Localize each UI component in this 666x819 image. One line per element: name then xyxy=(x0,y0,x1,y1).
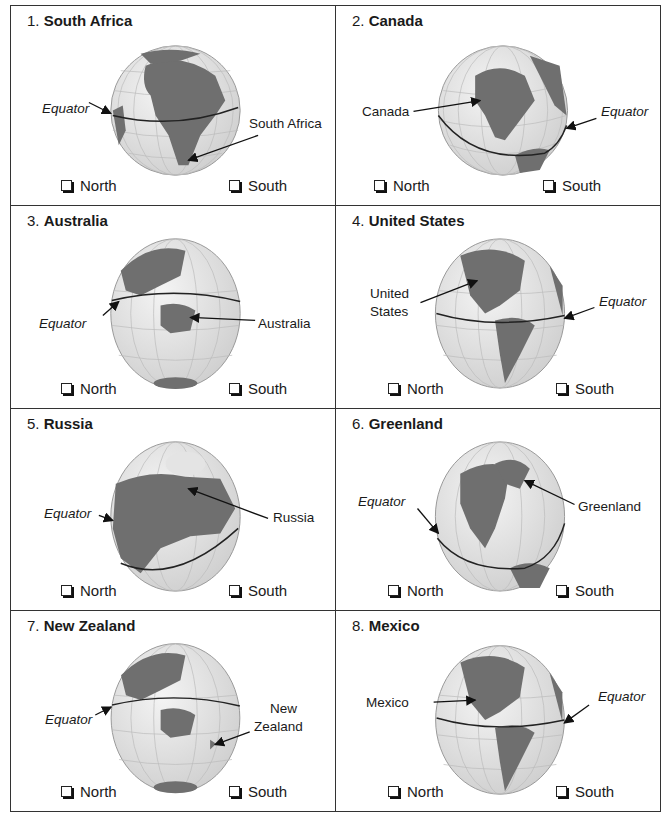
south-checkbox[interactable]: South xyxy=(556,380,614,397)
equator-label: Equator xyxy=(39,316,86,332)
north-checkbox[interactable]: North xyxy=(61,380,117,397)
north-checkbox[interactable]: North xyxy=(388,380,444,397)
pointer-label: Greenland xyxy=(578,499,641,515)
equator-label: Equator xyxy=(599,294,646,310)
checkbox-icon[interactable] xyxy=(388,786,399,797)
north-checkbox[interactable]: North xyxy=(61,177,117,194)
checkbox-icon[interactable] xyxy=(388,585,399,596)
question-title: 7. New Zealand xyxy=(27,617,135,634)
checkbox-icon[interactable] xyxy=(61,180,72,191)
south-checkbox[interactable]: South xyxy=(229,582,287,599)
north-checkbox[interactable]: North xyxy=(61,582,117,599)
question-6-greenland: 6. Greenland Equator Greenland North Sou… xyxy=(336,409,660,611)
south-checkbox[interactable]: South xyxy=(556,783,614,800)
checkbox-icon[interactable] xyxy=(229,180,240,191)
worksheet: 1. South Africa Equator South Africa Nor… xyxy=(10,5,661,812)
question-title: 4. United States xyxy=(352,212,465,229)
question-2-canada: 2. Canada Canada Equator North So xyxy=(336,6,660,206)
equator-label: Equator xyxy=(358,494,405,510)
pointer-label: Russia xyxy=(273,510,314,526)
question-5-russia: 5. Russia Equator Russia North South xyxy=(11,409,336,611)
pointer-label-line1: New xyxy=(270,701,297,717)
equator-label: Equator xyxy=(601,104,648,120)
south-checkbox[interactable]: South xyxy=(556,582,614,599)
pointer-label-line1: United xyxy=(370,286,409,302)
pointer-label: Australia xyxy=(258,316,311,332)
pointer-label: Canada xyxy=(362,104,409,120)
equator-label: Equator xyxy=(42,101,89,117)
question-title: 8. Mexico xyxy=(352,617,420,634)
question-4-united-states: 4. United States United States Equator xyxy=(336,206,660,409)
checkbox-icon[interactable] xyxy=(229,383,240,394)
checkbox-icon[interactable] xyxy=(556,383,567,394)
question-title: 3. Australia xyxy=(27,212,108,229)
south-checkbox[interactable]: South xyxy=(543,177,601,194)
north-checkbox[interactable]: North xyxy=(388,582,444,599)
checkbox-icon[interactable] xyxy=(229,786,240,797)
checkbox-icon[interactable] xyxy=(556,585,567,596)
equator-label: Equator xyxy=(45,712,92,728)
south-checkbox[interactable]: South xyxy=(229,380,287,397)
pointer-label-line2: Zealand xyxy=(254,719,303,735)
checkbox-icon[interactable] xyxy=(556,786,567,797)
globe-australia-icon xyxy=(11,206,335,408)
checkbox-icon[interactable] xyxy=(374,180,385,191)
south-checkbox[interactable]: South xyxy=(229,177,287,194)
south-checkbox[interactable]: South xyxy=(229,783,287,800)
question-8-mexico: 8. Mexico Mexico Equator North So xyxy=(336,611,660,811)
question-1-south-africa: 1. South Africa Equator South Africa Nor… xyxy=(11,6,336,206)
question-title: 1. South Africa xyxy=(27,12,132,29)
equator-label: Equator xyxy=(598,689,645,705)
checkbox-icon[interactable] xyxy=(61,786,72,797)
checkbox-icon[interactable] xyxy=(229,585,240,596)
question-title: 5. Russia xyxy=(27,415,93,432)
question-7-new-zealand: 7. New Zealand Equator New Zealand xyxy=(11,611,336,811)
pointer-label: South Africa xyxy=(249,116,322,132)
checkbox-icon[interactable] xyxy=(388,383,399,394)
question-3-australia: 3. Australia Equator Australia North xyxy=(11,206,336,409)
north-checkbox[interactable]: North xyxy=(374,177,430,194)
pointer-label-line2: States xyxy=(370,304,408,320)
checkbox-icon[interactable] xyxy=(61,585,72,596)
globe-americas-icon xyxy=(336,611,660,811)
question-title: 2. Canada xyxy=(352,12,423,29)
question-title: 6. Greenland xyxy=(352,415,443,432)
checkbox-icon[interactable] xyxy=(61,383,72,394)
pointer-label: Mexico xyxy=(366,695,409,711)
north-checkbox[interactable]: North xyxy=(61,783,117,800)
checkbox-icon[interactable] xyxy=(543,180,554,191)
equator-label: Equator xyxy=(44,506,91,522)
north-checkbox[interactable]: North xyxy=(388,783,444,800)
